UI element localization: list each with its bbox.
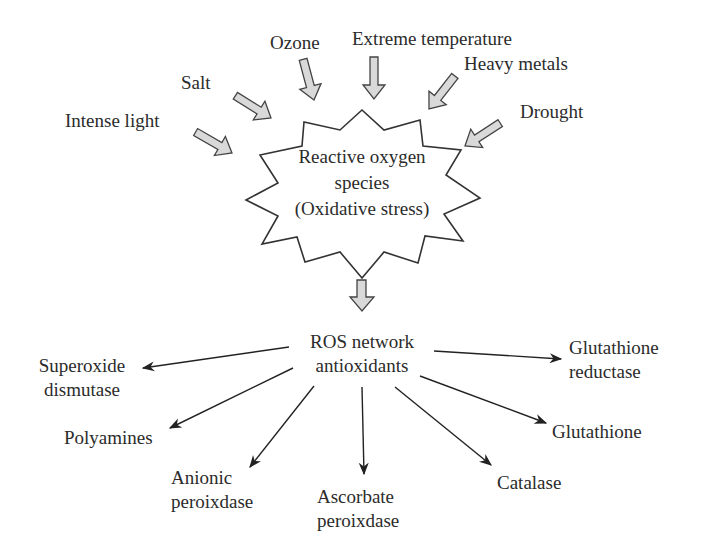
diagram-canvas [0,0,701,557]
label-line-1: Anionic [171,466,253,490]
antioxidant-ascorbate-peroxidase: Ascorbate peroixdase [317,485,399,533]
ros-network-label: ROS network antioxidants [272,330,452,378]
arrow-ros-to-network [350,280,374,311]
stressor-drought: Drought [520,100,583,124]
arrow-to-glutathione [420,376,546,423]
label-line-2: reductase [569,360,659,384]
label-line-1: Ascorbate [317,485,399,509]
stressor-intense-light: Intense light [65,109,159,133]
arrow-to-ascorbate-peroxidase [362,387,364,474]
stressor-extreme-temperature: Extreme temperature [352,27,512,51]
ros-line-2: species [262,171,462,195]
network-line-1: ROS network [272,330,452,354]
ros-line-3: (Oxidative stress) [262,197,462,221]
arrow-extreme-temperature [363,57,385,99]
arrow-salt [230,86,277,127]
label-line-1: Superoxide [22,354,142,378]
label-line-1: Glutathione [569,336,659,360]
arrow-to-superoxide-dismutase [143,347,289,368]
arrow-heavy-metals [420,69,463,116]
arrow-drought [459,114,506,155]
antioxidant-polyamines: Polyamines [64,426,153,450]
arrow-to-glutathione-reductase [434,351,561,359]
antioxidant-anionic-peroxidase: Anionic peroixdase [171,466,253,514]
label-line-2: peroixdase [171,490,253,514]
arrow-to-catalase [395,387,491,465]
arrow-ozone [293,57,325,103]
antioxidant-glutathione-reductase: Glutathione reductase [569,336,659,384]
stressor-ozone: Ozone [270,31,320,55]
antioxidant-superoxide-dismutase: Superoxide dismutase [22,354,142,402]
ros-center-label: Reactive oxygen species (Oxidative stres… [262,145,462,221]
stressor-salt: Salt [181,71,211,95]
label-line-2: dismutase [22,378,142,402]
network-line-2: antioxidants [272,354,452,378]
antioxidant-glutathione: Glutathione [552,420,642,444]
antioxidant-catalase: Catalase [497,471,561,495]
stressor-heavy-metals: Heavy metals [464,52,568,76]
arrow-to-anionic-peroxidase [250,386,314,467]
label-line-2: peroixdase [317,509,399,533]
ros-line-1: Reactive oxygen [262,145,462,169]
arrow-intense-light [190,122,237,162]
